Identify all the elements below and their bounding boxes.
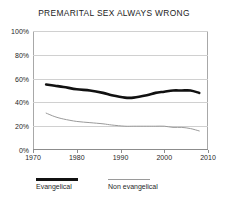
series-lines	[33, 31, 208, 150]
x-axis-tick-mark	[208, 150, 209, 153]
chart-container: PREMARITAL SEX ALWAYS WRONG 0%20%40%60%8…	[0, 0, 228, 202]
x-axis-tick-mark	[33, 150, 34, 153]
legend-swatch-evangelical	[36, 178, 78, 181]
y-axis-tick-label: 40%	[0, 99, 29, 106]
series-line-non-evangelical	[46, 113, 199, 131]
chart-title: PREMARITAL SEX ALWAYS WRONG	[0, 8, 228, 18]
x-axis-tick-mark	[164, 150, 165, 153]
x-axis-tick-label: 2000	[144, 154, 184, 161]
y-axis-tick-label: 100%	[0, 28, 29, 35]
x-axis-tick-label: 1990	[101, 154, 141, 161]
x-axis-tick-label: 1970	[13, 154, 53, 161]
legend-swatch-non-evangelical	[108, 179, 150, 180]
y-axis-tick-label: 80%	[0, 51, 29, 58]
x-axis-tick-label: 1980	[57, 154, 97, 161]
plot-area	[33, 31, 208, 150]
y-axis-tick-label: 60%	[0, 75, 29, 82]
y-axis-tick-label: 20%	[0, 123, 29, 130]
series-line-evangelical	[46, 85, 199, 98]
chart-legend: Evangelical Non evangelical	[0, 176, 228, 200]
x-axis-tick-mark	[121, 150, 122, 153]
y-axis-tick-label: 0%	[0, 147, 29, 154]
x-axis-tick-label: 2010	[188, 154, 228, 161]
x-axis-tick-mark	[77, 150, 78, 153]
legend-label-evangelical: Evangelical	[36, 183, 72, 190]
legend-label-non-evangelical: Non evangelical	[108, 183, 158, 190]
